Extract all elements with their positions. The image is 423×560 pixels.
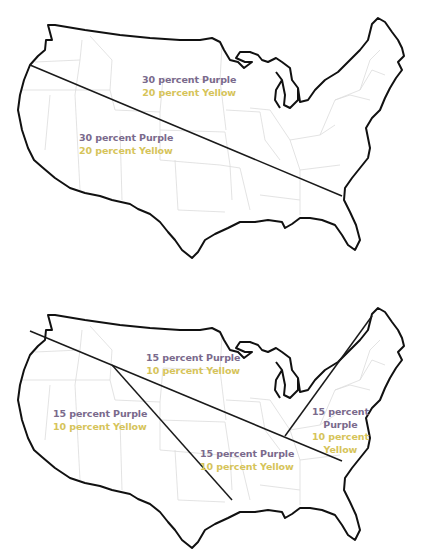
purple-percent: 15 percent Purple: [146, 352, 240, 365]
yellow-percent-line2: Yellow: [312, 444, 369, 457]
divider-line-west-east: [30, 331, 342, 461]
yellow-percent: 20 percent Yellow: [142, 87, 236, 100]
purple-percent-line1: 15 percent: [312, 406, 369, 419]
yellow-percent: 10 percent Yellow: [200, 461, 294, 474]
purple-percent: 30 percent Purple: [79, 132, 173, 145]
us-outline-top: [18, 18, 404, 258]
top-map: 30 percent Purple 20 percent Yellow 30 p…: [0, 0, 423, 270]
purple-percent: 15 percent Purple: [53, 408, 147, 421]
region-label-west: 15 percent Purple 10 percent Yellow: [53, 408, 147, 433]
bottom-map: 15 percent Purple 10 percent Yellow 15 p…: [0, 278, 423, 560]
region-label-east: 15 percent Purple 10 percent Yellow: [312, 406, 369, 456]
region-label-south-west: 30 percent Purple 20 percent Yellow: [79, 132, 173, 157]
region-label-north-east: 30 percent Purple 20 percent Yellow: [142, 74, 236, 99]
region-label-south-central: 15 percent Purple 10 percent Yellow: [200, 448, 294, 473]
purple-percent: 30 percent Purple: [142, 74, 236, 87]
yellow-percent: 20 percent Yellow: [79, 145, 173, 158]
state-borders: [22, 36, 385, 215]
yellow-percent: 10 percent Yellow: [53, 421, 147, 434]
yellow-percent: 10 percent Yellow: [146, 365, 240, 378]
purple-percent: 15 percent Purple: [200, 448, 294, 461]
region-label-north: 15 percent Purple 10 percent Yellow: [146, 352, 240, 377]
yellow-percent-line1: 10 percent: [312, 431, 369, 444]
us-map-outline: [0, 0, 423, 270]
purple-percent-line2: Purple: [312, 419, 369, 432]
